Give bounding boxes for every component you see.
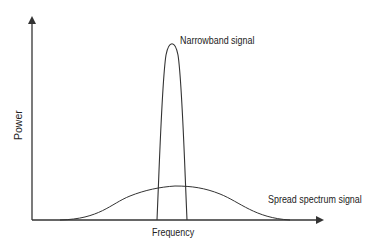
spread-spectrum-curve xyxy=(60,186,290,220)
spread-spectrum-signal-label: Spread spectrum signal xyxy=(268,193,362,205)
narrowband-curve xyxy=(157,44,187,220)
x-axis-label: Frequency xyxy=(152,226,194,238)
narrowband-signal-label: Narrowband signal xyxy=(180,34,254,46)
y-axis-label: Power xyxy=(12,110,24,140)
